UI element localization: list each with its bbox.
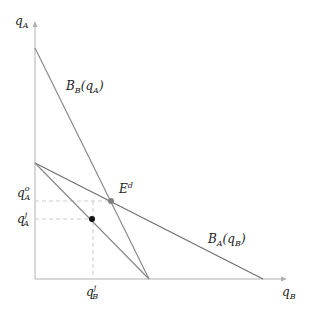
curve-BA-label: BA(qB) xyxy=(207,232,246,248)
x-axis-arrow-icon xyxy=(281,277,287,282)
y-axis-label: qA xyxy=(15,14,29,30)
curve-BA xyxy=(35,163,263,279)
tick-qA-j: qjA xyxy=(17,210,29,228)
joint-point xyxy=(89,216,95,222)
tick-qB-j: qjB xyxy=(86,283,98,301)
reaction-function-diagram: qA qB BB(qA) BA(qB) Ed qoA qjA qjB xyxy=(0,0,309,315)
y-axis-arrow-icon xyxy=(33,21,38,27)
curve-BB-label: BB(qA) xyxy=(65,79,104,95)
equilibrium-label: Ed xyxy=(118,181,133,196)
tick-qA-o: qoA xyxy=(17,184,31,202)
x-axis-label: qB xyxy=(282,285,296,301)
equilibrium-point xyxy=(108,198,114,204)
